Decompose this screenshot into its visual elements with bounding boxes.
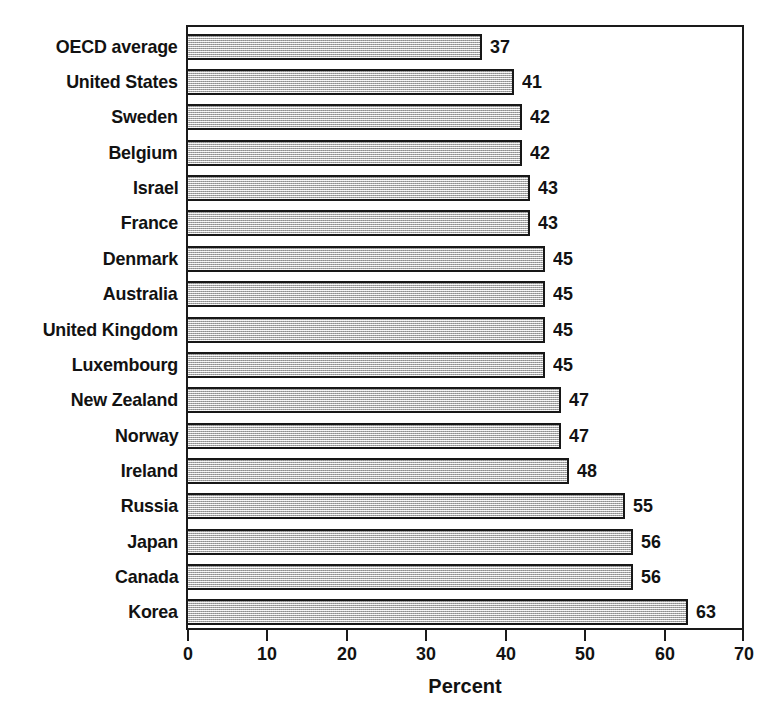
bar-row: [188, 423, 744, 449]
bar-value-label: 63: [696, 597, 716, 627]
bar-chart: OECD averageUnited StatesSwedenBelgiumIs…: [0, 0, 776, 713]
category-label: Canada: [115, 561, 178, 593]
category-label: Ireland: [121, 455, 178, 487]
x-axis-tick: [425, 630, 427, 641]
bar-value-label: 43: [538, 173, 558, 203]
bar-row: [188, 493, 744, 519]
x-axis-tick-label: 10: [257, 643, 277, 665]
x-axis-tick-label: 0: [183, 643, 193, 665]
bar-row: [188, 281, 744, 307]
bar-row: [188, 458, 744, 484]
x-axis-tick-label: 20: [337, 643, 357, 665]
x-axis-tick-label: 50: [575, 643, 595, 665]
bar-value-label: 45: [553, 350, 573, 380]
bar-value-label: 55: [633, 491, 653, 521]
category-label: Israel: [132, 172, 178, 204]
category-label: United Kingdom: [43, 314, 178, 346]
category-label: Korea: [128, 596, 178, 628]
x-axis: Percent 010203040506070: [186, 630, 744, 710]
x-axis-tick: [266, 630, 268, 641]
x-axis-tick-label: 40: [496, 643, 516, 665]
bar: [188, 529, 633, 555]
category-label: Russia: [121, 490, 178, 522]
category-label: Denmark: [103, 243, 178, 275]
category-label: France: [121, 207, 178, 239]
category-label: Luxembourg: [72, 349, 178, 381]
x-axis-tick: [505, 630, 507, 641]
x-axis-tick: [742, 630, 744, 641]
category-label: New Zealand: [71, 384, 178, 416]
category-label: Norway: [115, 420, 178, 452]
x-axis-tick-label: 60: [655, 643, 675, 665]
bar: [188, 104, 522, 130]
bar-value-label: 42: [530, 102, 550, 132]
bar-value-label: 56: [641, 562, 661, 592]
bar: [188, 69, 514, 95]
bar-row: [188, 69, 744, 95]
x-axis-tick: [584, 630, 586, 641]
bar-row: [188, 352, 744, 378]
bar-value-label: 47: [569, 385, 589, 415]
bar-value-label: 47: [569, 421, 589, 451]
bar-row: [188, 104, 744, 130]
category-axis-labels: OECD averageUnited StatesSwedenBelgiumIs…: [0, 27, 178, 628]
bar: [188, 599, 688, 625]
bar-row: [188, 599, 744, 625]
x-axis-tick-label: 70: [734, 643, 754, 665]
category-label: OECD average: [56, 31, 178, 63]
bar: [188, 281, 545, 307]
bar: [188, 210, 530, 236]
bar-value-label: 41: [522, 67, 542, 97]
bar-row: [188, 140, 744, 166]
x-axis-tick: [664, 630, 666, 641]
bar: [188, 317, 545, 343]
x-axis-title: Percent: [186, 675, 744, 698]
bar: [188, 34, 482, 60]
bar: [188, 493, 625, 519]
bar: [188, 352, 545, 378]
bar-value-label: 48: [577, 456, 597, 486]
bars-layer: 3741424243434545454547474855565663: [188, 27, 744, 628]
bar-row: [188, 210, 744, 236]
bar-row: [188, 246, 744, 272]
bar: [188, 423, 561, 449]
bar-value-label: 42: [530, 138, 550, 168]
x-axis-tick-label: 30: [416, 643, 436, 665]
bar-row: [188, 317, 744, 343]
bar-value-label: 37: [490, 32, 510, 62]
category-label: Japan: [127, 526, 178, 558]
bar: [188, 564, 633, 590]
bar: [188, 246, 545, 272]
bar: [188, 175, 530, 201]
x-axis-tick: [187, 630, 189, 641]
category-label: Sweden: [112, 101, 178, 133]
bar-value-label: 43: [538, 208, 558, 238]
category-label: United States: [66, 66, 178, 98]
bar-value-label: 56: [641, 527, 661, 557]
bar-value-label: 45: [553, 279, 573, 309]
bar-row: [188, 34, 744, 60]
category-label: Australia: [103, 278, 178, 310]
bar: [188, 140, 522, 166]
bar-row: [188, 175, 744, 201]
bar-row: [188, 387, 744, 413]
bar: [188, 387, 561, 413]
x-axis-tick: [346, 630, 348, 641]
category-label: Belgium: [109, 137, 178, 169]
bar: [188, 458, 569, 484]
bar-value-label: 45: [553, 244, 573, 274]
bar-value-label: 45: [553, 315, 573, 345]
